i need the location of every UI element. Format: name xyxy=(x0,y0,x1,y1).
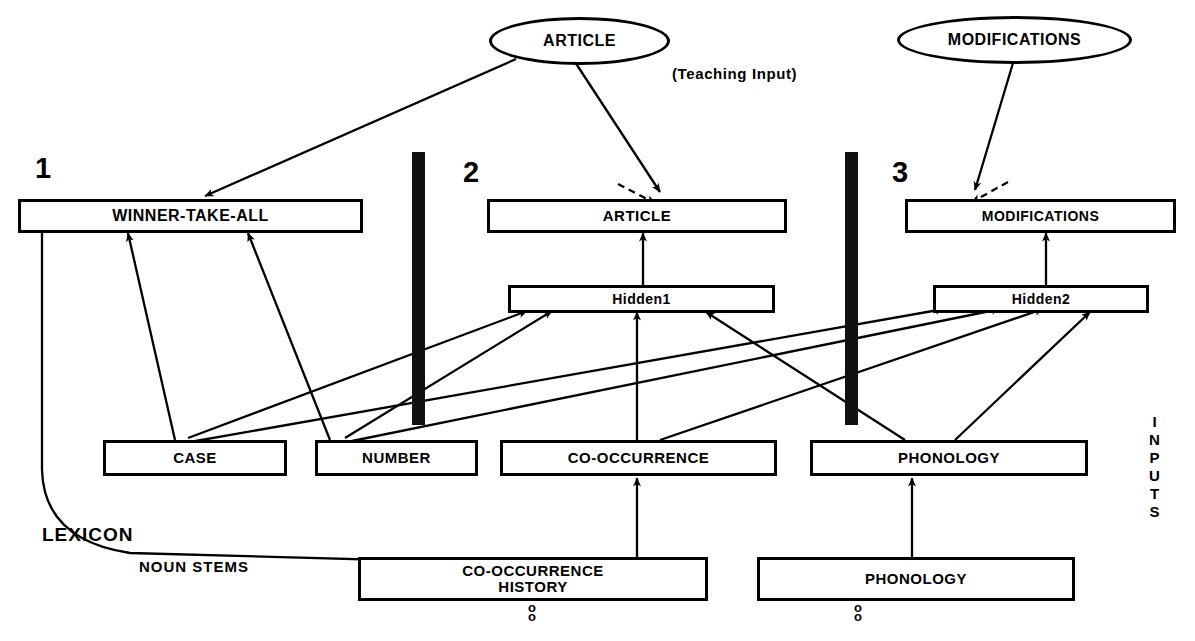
ellipsis-dot: o xyxy=(528,612,536,621)
output-box-winner-take-all-label: WINNER-TAKE-ALL xyxy=(112,208,269,225)
lexicon-box-co-occurrence-history-label: CO-OCCURRENCE HISTORY xyxy=(462,563,604,595)
hidden-box-hidden1[interactable]: Hidden1 xyxy=(508,285,775,313)
input-box-co-occurrence-label: CO-OCCURRENCE xyxy=(568,450,710,466)
ellipsis-dot: o xyxy=(854,612,862,621)
output-box-modifications[interactable]: MODIFICATIONS xyxy=(905,199,1176,233)
connection-lines xyxy=(0,0,1195,641)
lexicon-ellipsis-dots-1: o o xyxy=(528,603,536,621)
hidden-box-hidden2[interactable]: Hidden2 xyxy=(933,285,1149,313)
lexicon-label: LEXICON xyxy=(42,524,133,546)
output-box-winner-take-all[interactable]: WINNER-TAKE-ALL xyxy=(18,199,363,233)
module-number-1: 1 xyxy=(35,152,51,185)
output-box-article-label: ARTICLE xyxy=(603,208,672,224)
input-box-phonology[interactable]: PHONOLOGY xyxy=(810,440,1088,476)
input-box-phonology-label: PHONOLOGY xyxy=(898,450,1000,466)
lexicon-box-co-occurrence-history[interactable]: CO-OCCURRENCE HISTORY xyxy=(358,557,708,601)
diagram-canvas: ARTICLE MODIFICATIONS (Teaching Input) 1… xyxy=(0,0,1195,641)
hidden-box-hidden1-label: Hidden1 xyxy=(612,292,671,307)
teaching-input-note: (Teaching Input) xyxy=(672,65,797,82)
output-box-modifications-label: MODIFICATIONS xyxy=(982,209,1099,224)
inputs-axis-label: INPUTS xyxy=(1146,413,1163,521)
noun-stems-label: NOUN STEMS xyxy=(139,558,249,575)
teaching-node-modifications[interactable]: MODIFICATIONS xyxy=(897,16,1132,64)
lexicon-box-phonology[interactable]: PHONOLOGY xyxy=(757,557,1075,601)
input-box-number[interactable]: NUMBER xyxy=(315,440,478,476)
module-number-3: 3 xyxy=(892,156,908,189)
input-box-number-label: NUMBER xyxy=(362,450,431,466)
input-box-co-occurrence[interactable]: CO-OCCURRENCE xyxy=(500,440,777,476)
input-box-case[interactable]: CASE xyxy=(103,440,287,476)
lexicon-ellipsis-dots-2: o o xyxy=(854,603,862,621)
hidden-box-hidden2-label: Hidden2 xyxy=(1012,292,1071,307)
output-box-article[interactable]: ARTICLE xyxy=(487,199,787,233)
teaching-node-modifications-label: MODIFICATIONS xyxy=(948,31,1081,49)
lexicon-box-phonology-label: PHONOLOGY xyxy=(865,571,967,587)
module-number-2: 2 xyxy=(463,156,479,189)
module-divider-bar-2 xyxy=(845,152,858,425)
teaching-node-article-label: ARTICLE xyxy=(543,32,616,50)
teaching-node-article[interactable]: ARTICLE xyxy=(489,17,670,65)
input-box-case-label: CASE xyxy=(173,450,217,466)
module-divider-bar-1 xyxy=(412,152,425,425)
